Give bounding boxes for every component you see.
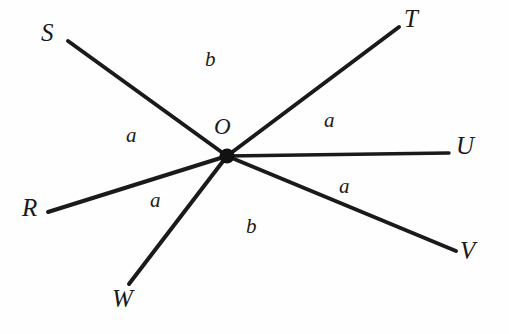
angle-diagram-figure: STUVWR baaaba O	[0, 0, 509, 334]
angle-label-ROW: a	[150, 190, 161, 211]
diagram-canvas	[0, 0, 509, 334]
rays-group	[48, 27, 456, 284]
ray-OU	[227, 153, 449, 156]
point-label-s: S	[41, 20, 54, 45]
ray-OR	[48, 156, 227, 212]
angle-label-ROS: a	[126, 125, 137, 146]
ray-OS	[68, 41, 227, 156]
point-label-v: V	[460, 238, 475, 263]
point-label-r: R	[22, 195, 37, 220]
angle-label-UOV: a	[339, 176, 350, 197]
ray-OV	[227, 156, 456, 251]
point-label-u: U	[456, 133, 474, 158]
vertex-label-o: O	[214, 115, 231, 138]
point-label-w: W	[112, 286, 133, 311]
point-label-t: T	[404, 6, 418, 31]
angle-label-TOU: a	[324, 110, 335, 131]
ray-OT	[227, 27, 399, 156]
vertex-point-o-dot	[220, 149, 235, 164]
ray-OW	[129, 156, 227, 284]
angle-label-SOT: b	[205, 49, 216, 70]
angle-label-WOV: b	[246, 216, 257, 237]
